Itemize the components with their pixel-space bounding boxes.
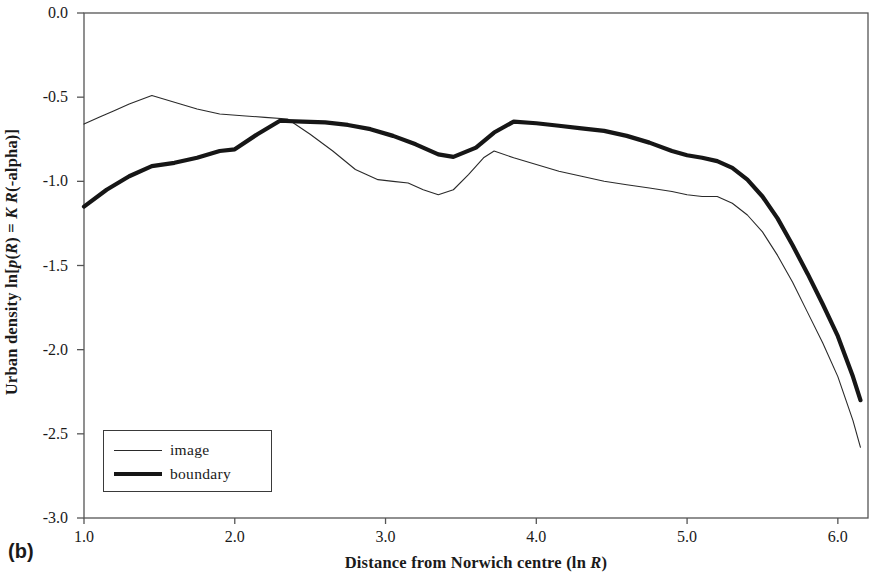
- legend-label-boundary: boundary: [170, 465, 231, 483]
- figure-panel-b: Urban density ln[p(R) = K R(-alpha)] Dis…: [0, 0, 878, 582]
- legend-swatch-image: [114, 450, 162, 451]
- legend-item-boundary: boundary: [114, 463, 231, 485]
- legend-label-image: image: [170, 441, 209, 459]
- legend: image boundary: [103, 430, 272, 492]
- series-line-boundary: [84, 121, 860, 400]
- legend-item-image: image: [114, 439, 209, 461]
- legend-swatch-boundary: [114, 472, 162, 476]
- plot-area: [0, 0, 878, 582]
